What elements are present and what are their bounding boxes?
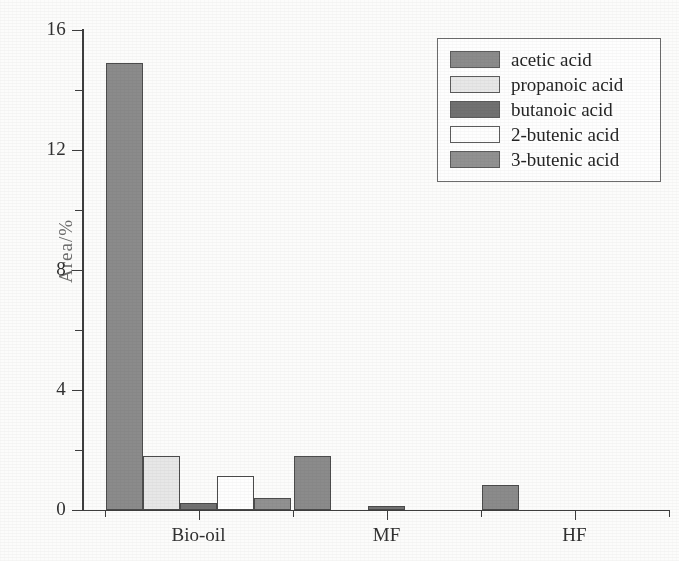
legend-label: 3-butenic acid	[511, 150, 619, 169]
y-tick-label: 8	[32, 258, 66, 280]
legend-item: acetic acid	[450, 47, 650, 72]
y-tick-label-wrap: 4	[20, 390, 66, 391]
legend-swatch	[450, 101, 500, 118]
bar	[143, 456, 180, 510]
bar	[294, 456, 331, 510]
y-tick-major	[72, 150, 82, 151]
legend-label: 2-butenic acid	[511, 125, 619, 144]
legend-item: butanoic acid	[450, 97, 650, 122]
y-tick-minor	[75, 90, 82, 91]
x-tick-major	[199, 510, 200, 520]
y-tick-label-wrap: 12	[20, 150, 66, 151]
x-tick-major	[575, 510, 576, 520]
y-tick-label: 12	[32, 138, 66, 160]
y-tick-major	[72, 390, 82, 391]
legend-item: 2-butenic acid	[450, 122, 650, 147]
y-tick-label: 4	[32, 378, 66, 400]
y-tick-label: 16	[32, 18, 66, 40]
legend-label: acetic acid	[511, 50, 592, 69]
y-tick-major	[72, 270, 82, 271]
y-tick-label-wrap: 8	[20, 270, 66, 271]
x-tick-label: Bio-oil	[139, 524, 259, 546]
legend-item: 3-butenic acid	[450, 147, 650, 172]
x-tick-minor	[293, 510, 294, 517]
bar	[180, 503, 217, 511]
y-tick-minor	[75, 330, 82, 331]
x-tick-minor	[481, 510, 482, 517]
x-tick-label: MF	[327, 524, 447, 546]
legend-label: propanoic acid	[511, 75, 623, 94]
legend-label: butanoic acid	[511, 100, 613, 119]
y-tick-label-wrap: 0	[20, 510, 66, 511]
legend-swatch	[450, 126, 500, 143]
bar	[368, 506, 405, 511]
y-tick-major	[72, 30, 82, 31]
x-tick-minor	[669, 510, 670, 517]
x-tick-major	[387, 510, 388, 520]
legend-swatch	[450, 51, 500, 68]
y-tick-label: 0	[32, 498, 66, 520]
legend: acetic acidpropanoic acidbutanoic acid2-…	[437, 38, 661, 182]
bar-chart-figure: Area/% 0481216 Bio-oilMFHF acetic acidpr…	[0, 0, 679, 561]
x-tick-minor	[105, 510, 106, 517]
y-tick-minor	[75, 210, 82, 211]
x-tick-label: HF	[515, 524, 635, 546]
y-tick-label-wrap: 16	[20, 30, 66, 31]
bar	[482, 485, 519, 511]
y-tick-major	[72, 510, 82, 511]
bar	[217, 476, 254, 511]
legend-swatch	[450, 151, 500, 168]
bar	[106, 63, 143, 510]
legend-item: propanoic acid	[450, 72, 650, 97]
y-tick-minor	[75, 450, 82, 451]
y-axis-title: Area/%	[55, 171, 77, 331]
legend-swatch	[450, 76, 500, 93]
bar	[254, 498, 291, 510]
